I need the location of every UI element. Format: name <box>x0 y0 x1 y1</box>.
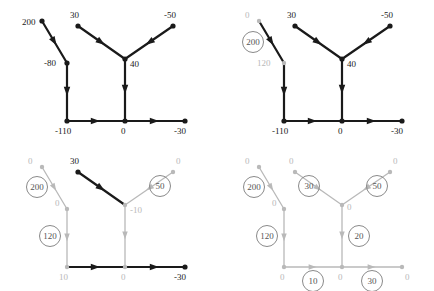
edge-arrowhead <box>91 264 100 270</box>
panel-final: 200120305020103000000000 <box>244 156 411 291</box>
node-value-label: 0 <box>272 198 277 208</box>
node-dot <box>123 265 127 269</box>
node-n-botleft: -110 <box>272 118 289 136</box>
node-dot <box>340 203 344 207</box>
edge-e-botleft-botmid <box>284 118 342 124</box>
node-dot <box>282 61 286 65</box>
edge-arrowhead <box>64 87 70 96</box>
edge-flow-label: 120 <box>260 231 274 241</box>
edge-flow-badge: 10 <box>303 271 324 291</box>
node-dot <box>339 118 344 123</box>
node-n-botright: 0 <box>400 265 410 282</box>
edge-e-topmid-center <box>78 26 125 59</box>
node-dot <box>182 118 187 123</box>
edge-e-botmid-botright <box>125 118 185 124</box>
node-n-botleft: 0 <box>280 265 286 282</box>
node-dot <box>281 118 286 123</box>
node-value-label: -30 <box>391 126 403 136</box>
node-dot <box>65 265 69 269</box>
node-dot <box>257 19 261 23</box>
edge-e-center-botmid <box>122 59 128 121</box>
node-n-topleft: 0 <box>28 156 44 169</box>
edge-flow-badge: 20 <box>349 226 370 247</box>
edge-e-center-botmid: 20 <box>339 205 369 267</box>
node-value-label: 10 <box>59 272 69 282</box>
node-dot <box>75 169 80 174</box>
edge-arrowhead <box>122 85 128 94</box>
node-value-label: 0 <box>28 156 33 166</box>
edge-e-botleft-botmid <box>67 118 125 124</box>
edge-e-topright-center: 50 <box>125 172 173 205</box>
node-n-topright: 0 <box>171 156 181 174</box>
node-value-label: 0 <box>245 10 250 20</box>
edge-e-topright-center: 50 <box>342 172 390 205</box>
diagram-canvas: 20030-50-8040-1100-30200030-5012040-1100… <box>0 0 434 291</box>
node-n-topmid: 30 <box>287 10 298 29</box>
edge-arrowhead <box>308 118 317 124</box>
edge-arrowhead <box>64 234 69 242</box>
edge-arrowhead <box>150 264 159 270</box>
node-value-label: 0 <box>121 272 126 282</box>
node-value-label: 0 <box>245 156 250 166</box>
node-value-label: -110 <box>55 126 72 136</box>
node-value-label: 120 <box>257 58 271 68</box>
node-value-label: -110 <box>272 126 289 136</box>
edge-flow-badge: 30 <box>362 271 383 291</box>
node-dot <box>123 203 127 207</box>
edge-e-botleft-botmid <box>67 264 125 270</box>
edge-arrowhead <box>122 232 127 240</box>
edge-e-topmid-center: 30 <box>295 172 342 205</box>
node-n-topleft: 0 <box>245 156 261 169</box>
edge-e-topmid-center <box>78 172 125 205</box>
node-dot <box>122 118 127 123</box>
edge-flow-label: 30 <box>305 181 315 191</box>
edge-flow-label: 200 <box>246 37 260 47</box>
node-dot <box>400 265 404 269</box>
node-n-botleft: -110 <box>55 118 72 136</box>
node-dot <box>339 56 344 61</box>
node-value-label: 0 <box>338 126 343 136</box>
node-dot <box>64 118 69 123</box>
node-n-topleft: 200 <box>22 17 45 27</box>
edge-e-topleft-mid: 200 <box>244 167 285 209</box>
edge-e-topright-center <box>125 26 173 59</box>
edge-arrowhead <box>281 234 286 242</box>
edge-flow-label: 30 <box>368 276 378 286</box>
edge-flow-label: 200 <box>247 182 261 192</box>
node-dot <box>39 18 44 23</box>
node-value-label: -30 <box>174 126 186 136</box>
edge-arrowhead <box>339 85 345 94</box>
edge-e-botmid-botright <box>125 264 185 270</box>
edge-flow-badge: 200 <box>243 32 264 53</box>
node-value-label: 40 <box>347 59 357 69</box>
node-dot <box>40 165 44 169</box>
edge-arrowhead <box>150 118 159 124</box>
edge-flow-label: 120 <box>43 231 57 241</box>
node-value-label: 0 <box>121 126 126 136</box>
edge-arrowhead <box>281 87 287 96</box>
node-value-label: 0 <box>280 272 285 282</box>
edge-flow-label: 20 <box>355 231 365 241</box>
node-dot <box>388 170 392 174</box>
node-dot <box>292 23 297 28</box>
edge-e-topleft-mid: 200 <box>243 21 285 63</box>
edge-flow-label: 200 <box>30 182 44 192</box>
edge-arrowhead <box>367 118 376 124</box>
node-dot <box>170 23 175 28</box>
node-value-label: 0 <box>55 198 60 208</box>
node-value-label: 30 <box>70 10 80 20</box>
node-value-label: 0 <box>289 156 294 166</box>
edge-arrowhead <box>267 183 276 192</box>
panel-step-2: 2001205003000-10100-30 <box>27 156 188 282</box>
edge-arrowhead <box>50 183 59 192</box>
node-value-label: 200 <box>22 17 36 27</box>
edge-e-topright-center <box>342 26 390 59</box>
edge-flow-label: 10 <box>309 276 319 286</box>
edge-e-mid-botleft <box>281 63 287 121</box>
node-dot <box>182 264 187 269</box>
edge-e-mid-botleft: 120 <box>257 209 287 267</box>
edge-arrowhead <box>91 118 100 124</box>
panel-step-1: 200030-5012040-1100-30 <box>243 10 405 136</box>
edge-e-mid-botleft <box>64 63 70 121</box>
node-value-label: -10 <box>130 205 142 215</box>
